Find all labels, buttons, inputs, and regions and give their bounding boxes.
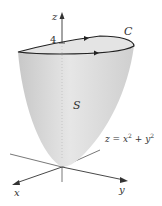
x-axis-label: x	[14, 188, 20, 198]
surface-S-label: S	[73, 100, 81, 111]
y-axis-label: y	[119, 185, 125, 195]
z-axis-label: z	[52, 12, 57, 22]
paraboloid-figure	[0, 0, 162, 206]
equation-label: z = x2 + y2	[105, 133, 154, 144]
curve-C-label: C	[124, 26, 132, 37]
y-axis-arrowhead	[120, 177, 128, 183]
z-axis-arrowhead	[60, 12, 65, 19]
equation-exp2: 2	[150, 132, 154, 139]
equation-mid: + y	[132, 134, 150, 144]
x-axis	[16, 167, 62, 183]
equation-lhs: z = x	[105, 134, 128, 144]
x-axis-arrowhead	[12, 180, 20, 185]
y-axis	[62, 167, 124, 180]
height-4-label: 4	[50, 35, 56, 45]
